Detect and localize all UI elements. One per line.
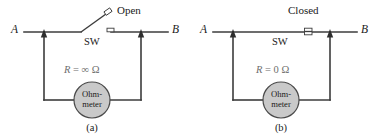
panel-b-resistance-unit: Ω (281, 64, 289, 75)
panel-a-resistance-symbol: R (64, 64, 70, 75)
circuit-vector-layer (0, 0, 380, 139)
panel-b-ohmmeter-label-line2: meter (259, 100, 303, 109)
panel-a-terminal-label-a: A (11, 24, 18, 36)
panel-a-switch-contact-pad (107, 28, 114, 32)
panel-a-terminal-label-b: B (172, 24, 179, 36)
panel-a-resistance-unit: Ω (92, 64, 100, 75)
panel-a-switch-label: SW (84, 37, 100, 48)
ohmmeter-switch-figure: A B Open SW R = ∞ Ω Ohm- meter (a) A B C… (0, 0, 380, 139)
panel-b-terminal-label-b: B (361, 24, 368, 36)
panel-b-resistance-equals: = (265, 64, 271, 75)
panel-b-arrowhead-left (230, 29, 236, 38)
panel-a-ohmmeter-label-line2: meter (70, 100, 114, 109)
panel-b-arrowhead-right (327, 29, 333, 38)
panel-b-switch-label: SW (272, 37, 288, 48)
panel-a-arrowhead-left (41, 29, 47, 38)
panel-a-switch-state-label: Open (117, 5, 141, 16)
panel-b-resistance-symbol: R (256, 64, 262, 75)
panel-a-caption: (a) (72, 122, 112, 133)
panel-b-resistance-value: 0 (274, 64, 279, 75)
panel-a-ohmmeter-label-line1: Ohm- (70, 90, 114, 99)
panel-a-switch-blade (81, 14, 106, 32)
panel-b-ohmmeter-label-line1: Ohm- (259, 90, 303, 99)
panel-b-caption: (b) (261, 122, 301, 133)
panel-a-resistance-label: R = ∞ Ω (64, 65, 100, 76)
panel-b-terminal-label-a: A (200, 24, 207, 36)
panel-a-switch-blade-tip (104, 8, 112, 15)
panel-a-resistance-value: ∞ (82, 64, 90, 75)
panel-b-resistance-label: R = 0 Ω (256, 65, 289, 76)
panel-b-switch-state-label: Closed (288, 5, 319, 16)
panel-a-resistance-equals: = (73, 64, 79, 75)
panel-a-arrowhead-right (138, 29, 144, 38)
